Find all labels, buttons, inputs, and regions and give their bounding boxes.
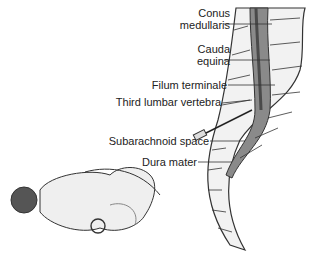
label-cauda-line1: Cauda — [197, 43, 230, 55]
label-subarachnoid-space: Subarachnoid space — [109, 135, 209, 147]
label-filum-terminale: Filum terminale — [152, 79, 227, 91]
patient-figure — [40, 168, 160, 234]
label-cauda-line2: equina — [197, 55, 230, 67]
label-third-lumbar-vertebra: Third lumbar vertebra — [116, 96, 221, 108]
label-cauda-equina: Cauda equina — [197, 43, 230, 67]
spine-diagram — [0, 0, 327, 253]
label-dura-mater: Dura mater — [142, 156, 197, 168]
label-conus-line2: medullaris — [180, 19, 230, 31]
patient-head — [11, 187, 37, 213]
label-conus-medullaris: Conus medullaris — [180, 7, 230, 31]
label-conus-line1: Conus — [180, 7, 230, 19]
